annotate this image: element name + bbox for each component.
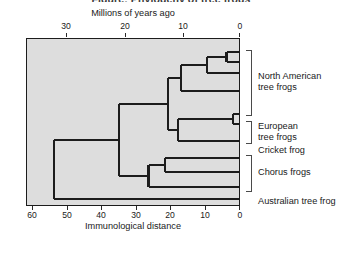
bottom-ticklabel-60: 60 [19,210,45,220]
clade-label-chorus-frogs: Chorus frogs [258,167,311,178]
bottom-ticklabel-10: 10 [192,210,218,220]
bottom-ticklabel-30: 30 [123,210,149,220]
bracket-chorus-frogs [246,155,252,192]
top-ticklabel-30: 30 [53,21,79,31]
bottom-ticklabel-20: 20 [157,210,183,220]
clade-label-cricket-frog: Cricket frog [258,145,305,156]
clade-label-australian-tree-frog: Australian tree frog [258,196,336,207]
bottom-ticklabel-50: 50 [54,210,80,220]
top-axis-title: Millions of years ago [26,8,240,18]
phylogenetic-tree-figure: Figure: Phylogeny of tree frogs Millions… [0,0,342,256]
bottom-ticklabel-40: 40 [88,210,114,220]
top-tick-30 [66,33,67,37]
figure-title: Figure: Phylogeny of tree frogs [0,0,342,2]
top-tick-10 [183,33,184,37]
bottom-ticklabel-0: 0 [227,210,253,220]
bracket-north-american-tree-frogs [246,50,252,116]
clade-label-european-tree-frogs: European tree frogs [258,121,298,144]
bracket-european-tree-frogs [246,121,252,144]
top-ticklabel-20: 20 [112,21,138,31]
top-tick-0 [239,33,240,37]
top-tick-20 [125,33,126,37]
clade-label-north-american-tree-frogs: North American tree frogs [258,71,321,94]
bottom-axis-title: Immunological distance [26,221,240,231]
plot-area [26,38,240,206]
top-ticklabel-0: 0 [227,21,253,31]
top-ticklabel-10: 10 [170,21,196,31]
